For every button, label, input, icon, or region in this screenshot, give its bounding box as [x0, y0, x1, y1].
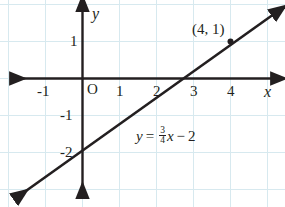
x-axis-label: x — [264, 84, 271, 100]
equation-constant: 2 — [188, 128, 196, 145]
y-tick-label-1: 1 — [70, 34, 78, 49]
grid-lines — [0, 0, 285, 207]
equation-fraction: 3 4 — [159, 126, 166, 147]
fraction-numerator: 3 — [159, 126, 166, 136]
equation-minus: − — [177, 128, 185, 145]
y-axis-label: y — [92, 6, 99, 22]
graph-figure: y x O -1 1 2 3 4 1 -1 -2 (4, 1) y = 3 4 … — [0, 0, 285, 207]
x-tick-label-4: 4 — [227, 84, 235, 99]
equation-equals: = — [146, 128, 154, 145]
x-tick-label-neg1: -1 — [37, 84, 50, 99]
origin-label: O — [87, 82, 98, 97]
equation-lhs: y — [136, 128, 143, 145]
y-tick-label-neg2: -2 — [60, 145, 73, 160]
plotted-point-4-1 — [228, 39, 234, 45]
point-annotation-label: (4, 1) — [192, 22, 225, 37]
coordinate-plane — [0, 0, 285, 207]
fraction-denominator: 4 — [159, 135, 166, 146]
x-tick-label-3: 3 — [190, 84, 198, 99]
equation-variable: x — [167, 128, 174, 145]
y-tick-label-neg1: -1 — [60, 108, 73, 123]
equation-annotation: y = 3 4 x − 2 — [136, 126, 196, 147]
x-tick-label-2: 2 — [153, 84, 161, 99]
x-tick-label-1: 1 — [116, 84, 124, 99]
